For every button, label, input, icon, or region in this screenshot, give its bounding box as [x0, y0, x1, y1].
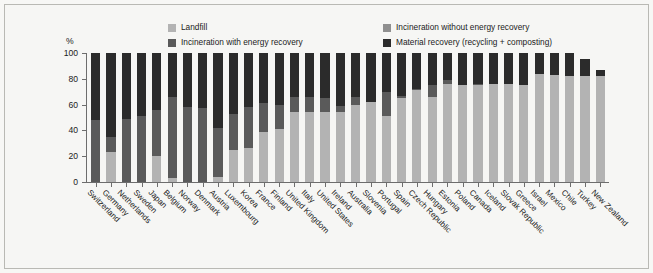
y-tick-mark: [82, 79, 86, 80]
bar-segment: [596, 76, 605, 182]
bar-segment: [382, 116, 391, 182]
bar-column: [535, 53, 544, 182]
bar-segment: [473, 85, 482, 182]
bar-column: [198, 53, 207, 182]
bar-segment: [106, 137, 115, 152]
bar-segment: [229, 114, 238, 150]
x-tick-mark: [432, 183, 433, 187]
bar-segment: [504, 84, 513, 182]
x-tick-mark: [264, 183, 265, 187]
bar-column: [504, 53, 513, 182]
bar-column: [458, 53, 467, 182]
x-tick-mark: [203, 183, 204, 187]
bar-segment: [229, 53, 238, 114]
bar-segment: [213, 128, 222, 177]
bar-segment: [91, 120, 100, 182]
bar-segment: [168, 53, 177, 97]
bar-segment: [412, 53, 421, 89]
bar-column: [244, 53, 253, 182]
x-axis-label: New Zealand: [590, 188, 630, 228]
bar-column: [183, 53, 192, 182]
bar-segment: [489, 84, 498, 182]
bar-segment: [351, 105, 360, 182]
bar-segment: [305, 97, 314, 112]
bar-segment: [259, 132, 268, 182]
x-tick-mark: [96, 183, 97, 187]
bar-column: [106, 53, 115, 182]
bar-column: [443, 53, 452, 182]
x-tick-mark: [509, 183, 510, 187]
chart-figure: Landfill Incineration without energy rec…: [0, 0, 653, 273]
legend-swatch-incineration-with-recovery: [168, 39, 176, 47]
bar-segment: [351, 97, 360, 105]
bar-segment: [198, 53, 207, 108]
bar-column: [305, 53, 314, 182]
bar-column: [91, 53, 100, 182]
legend-item-incineration-without-recovery: Incineration without energy recovery: [383, 20, 598, 35]
bar-segment: [213, 53, 222, 128]
x-tick-mark: [126, 183, 127, 187]
bar-column: [152, 53, 161, 182]
bar-segment: [320, 98, 329, 112]
bar-segment: [137, 53, 146, 116]
bar-segment: [275, 53, 284, 105]
bar-segment: [443, 53, 452, 80]
bar-segment: [244, 148, 253, 182]
bar-segment: [336, 112, 345, 182]
x-tick-mark: [417, 183, 418, 187]
bar-segment: [122, 119, 131, 182]
x-tick-mark: [493, 183, 494, 187]
y-tick-mark: [82, 53, 86, 54]
bar-segment: [152, 53, 161, 110]
bar-segment: [305, 112, 314, 182]
y-axis-line: [86, 53, 87, 183]
bar-segment: [458, 85, 467, 182]
y-tick-label: 80: [0, 74, 78, 84]
x-tick-mark: [157, 183, 158, 187]
x-tick-mark: [585, 183, 586, 187]
x-tick-mark: [187, 183, 188, 187]
legend-swatch-landfill: [168, 24, 176, 32]
x-tick-mark: [524, 183, 525, 187]
bar-segment: [183, 107, 192, 182]
bar-column: [320, 53, 329, 182]
bar-column: [275, 53, 284, 182]
bar-segment: [168, 178, 177, 182]
x-tick-mark: [371, 183, 372, 187]
legend-label-material-recovery: Material recovery (recycling + compostin…: [396, 38, 552, 47]
x-tick-mark: [386, 183, 387, 187]
bar-segment: [428, 53, 437, 85]
legend-swatch-material-recovery: [383, 39, 391, 47]
x-tick-mark: [356, 183, 357, 187]
bar-segment: [244, 53, 253, 107]
bar-column: [428, 53, 437, 182]
bar-segment: [320, 112, 329, 182]
x-tick-mark: [478, 183, 479, 187]
bar-segment: [489, 53, 498, 84]
bar-column: [213, 53, 222, 182]
x-tick-mark: [325, 183, 326, 187]
plot-area: [88, 53, 608, 182]
bar-segment: [229, 150, 238, 182]
bar-segment: [443, 84, 452, 182]
legend-item-material-recovery: Material recovery (recycling + compostin…: [383, 35, 598, 50]
bar-segment: [504, 53, 513, 84]
bar-segment: [428, 85, 437, 97]
bar-segment: [428, 97, 437, 182]
bar-column: [351, 53, 360, 182]
x-tick-mark: [570, 183, 571, 187]
bar-segment: [290, 53, 299, 97]
legend-item-landfill: Landfill: [168, 20, 383, 35]
bar-segment: [259, 103, 268, 131]
bar-column: [550, 53, 559, 182]
bar-segment: [366, 102, 375, 182]
y-tick-mark: [82, 156, 86, 157]
bar-segment: [397, 98, 406, 182]
bar-segment: [565, 53, 574, 76]
x-tick-mark: [463, 183, 464, 187]
x-tick-mark: [172, 183, 173, 187]
bar-column: [366, 53, 375, 182]
bar-group: [88, 53, 608, 182]
x-tick-mark: [402, 183, 403, 187]
bar-column: [412, 53, 421, 182]
